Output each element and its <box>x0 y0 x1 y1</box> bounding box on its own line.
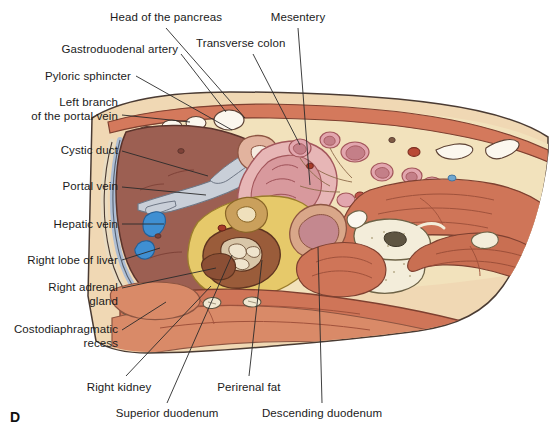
label-right-kidney: Right kidney <box>87 381 151 395</box>
lateral-artery-2 <box>389 137 395 142</box>
cross-section-illustration <box>0 0 560 432</box>
label-gastroduodenal-artery: Gastroduodenal artery <box>61 43 178 57</box>
psoas-muscle <box>297 243 386 297</box>
label-left-branch-portal-vein: Left branch of the portal vein <box>31 96 118 123</box>
label-portal-vein: Portal vein <box>63 180 118 194</box>
label-mesentery: Mesentery <box>271 11 326 25</box>
label-transverse-colon: Transverse colon <box>196 37 285 51</box>
label-right-adrenal-gland: Right adrenal gland <box>48 281 118 308</box>
label-pyloric-sphincter: Pyloric sphincter <box>45 70 131 84</box>
panel-letter: D <box>10 409 20 425</box>
label-right-lobe-of-liver: Right lobe of liver <box>27 254 118 268</box>
label-perirenal-fat: Perirenal fat <box>217 381 280 395</box>
liver-vessel-4 <box>155 234 161 238</box>
label-costodiaphragmatic-recess: Costodiaphragmatic recess <box>14 323 118 350</box>
right-adrenal-gland <box>202 254 236 280</box>
lateral-artery-1 <box>408 148 420 157</box>
spinal-canal <box>384 232 406 247</box>
renal-vessel <box>218 225 226 231</box>
label-head-of-the-pancreas: Head of the pancreas <box>110 11 222 25</box>
label-descending-duodenum: Descending duodenum <box>262 407 382 421</box>
label-superior-duodenum: Superior duodenum <box>116 407 219 421</box>
rib-fleck-right <box>472 232 499 248</box>
anatomy-figure-panel: Head of the pancreasMesenteryTransverse … <box>0 0 560 432</box>
lateral-vein-small <box>448 175 456 181</box>
label-hepatic-vein: Hepatic vein <box>54 218 118 232</box>
hepatic-vein-branch <box>135 241 155 259</box>
label-cystic-duct: Cystic duct <box>61 144 118 158</box>
liver-vessel-1 <box>178 149 184 154</box>
